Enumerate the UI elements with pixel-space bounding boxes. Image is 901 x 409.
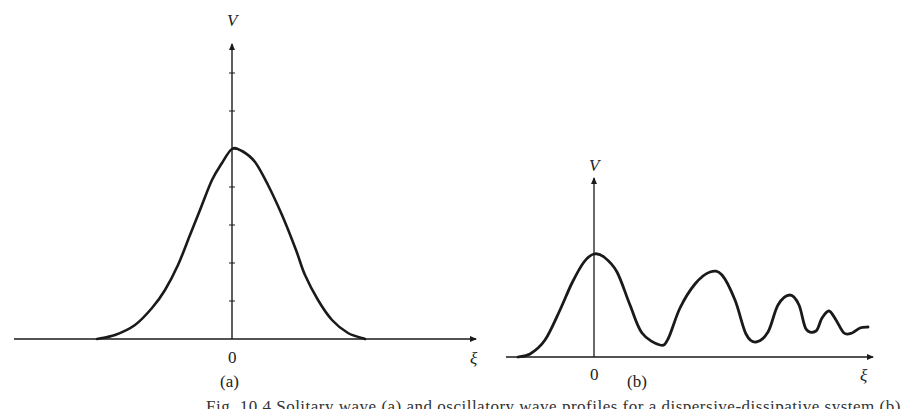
panel-a-origin-label: 0	[228, 349, 237, 366]
panel-b-curve	[518, 254, 868, 357]
panel-a-x-label: ξ	[470, 350, 477, 367]
panel-b-y-label: V	[589, 157, 599, 174]
panel-b-caption-label: (b)	[627, 373, 647, 390]
panel-a-caption-label: (a)	[220, 373, 239, 390]
panel-b	[506, 178, 873, 357]
panel-a	[14, 44, 476, 339]
panel-a-y-label: V	[227, 12, 237, 29]
panel-a-curve	[97, 148, 365, 339]
panel-b-origin-label: 0	[590, 366, 599, 383]
panel-b-x-label: ξ	[860, 367, 867, 384]
figure-caption-partial: Fig. 10.4 Solitary wave (a) and oscillat…	[206, 397, 901, 409]
